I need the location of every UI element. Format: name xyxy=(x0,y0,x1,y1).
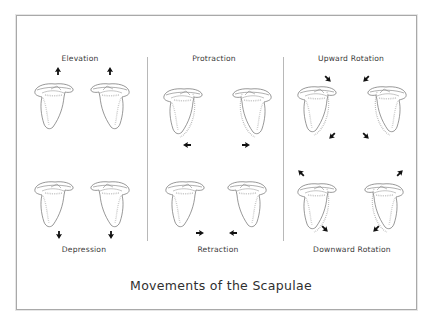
arrow-down-right-icon xyxy=(320,224,330,234)
scapula-retraction-left xyxy=(164,175,208,233)
figure-title: Movements of the Scapulae xyxy=(130,278,312,293)
arrow-left-icon xyxy=(228,229,238,237)
scapula-upward-rotation-right xyxy=(365,80,409,138)
arrow-down-left-icon xyxy=(327,131,337,141)
arrow-down-left-icon xyxy=(361,74,371,84)
scapula-elevation-left xyxy=(33,77,77,135)
label-protraction: Protraction xyxy=(192,54,236,63)
scapula-depression-right xyxy=(88,175,132,233)
scapula-retraction-right xyxy=(225,175,269,233)
label-depression: Depression xyxy=(62,245,106,254)
scapula-downward-rotation-left xyxy=(296,177,340,235)
arrow-up-icon xyxy=(106,66,114,76)
arrow-down-right-icon xyxy=(361,131,371,141)
arrow-right-icon xyxy=(195,229,205,237)
column-divider-1 xyxy=(147,57,148,241)
scapula-depression-left xyxy=(33,175,77,233)
scapula-protraction-left xyxy=(162,82,206,140)
label-elevation: Elevation xyxy=(61,54,98,63)
scapula-protraction-right xyxy=(230,82,274,140)
arrow-down-icon xyxy=(55,230,63,240)
label-upward-rotation: Upward Rotation xyxy=(318,54,384,63)
arrow-down-icon xyxy=(107,230,115,240)
arrow-up-icon xyxy=(54,66,62,76)
arrow-down-right-icon xyxy=(323,74,333,84)
arrow-up-left-icon xyxy=(296,168,306,178)
label-downward-rotation: Downward Rotation xyxy=(313,245,391,254)
column-divider-2 xyxy=(283,57,284,241)
arrow-down-left-icon xyxy=(371,224,381,234)
arrow-left-icon xyxy=(182,141,192,149)
label-retraction: Retraction xyxy=(197,245,238,254)
arrow-right-icon xyxy=(241,141,251,149)
scapula-downward-rotation-right xyxy=(362,177,406,235)
scapula-elevation-right xyxy=(88,77,132,135)
scapula-upward-rotation-left xyxy=(296,80,340,138)
arrow-up-right-icon xyxy=(395,168,405,178)
